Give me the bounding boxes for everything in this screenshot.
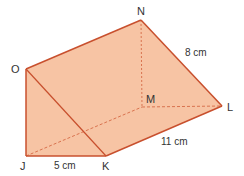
vertex-label-K: K [102,160,110,172]
dimension-label-JK: 5 cm [54,160,76,171]
dimension-label-NL: 8 cm [185,47,207,58]
vertex-label-N: N [137,5,145,17]
vertex-label-M: M [146,93,155,105]
prism-diagram: O N J K L M 5 cm 11 cm 8 cm [0,0,244,176]
vertex-label-J: J [20,160,26,172]
face-body [26,20,222,156]
vertex-label-L: L [227,101,233,113]
dimension-label-KL: 11 cm [161,136,188,147]
vertex-label-O: O [11,63,20,75]
